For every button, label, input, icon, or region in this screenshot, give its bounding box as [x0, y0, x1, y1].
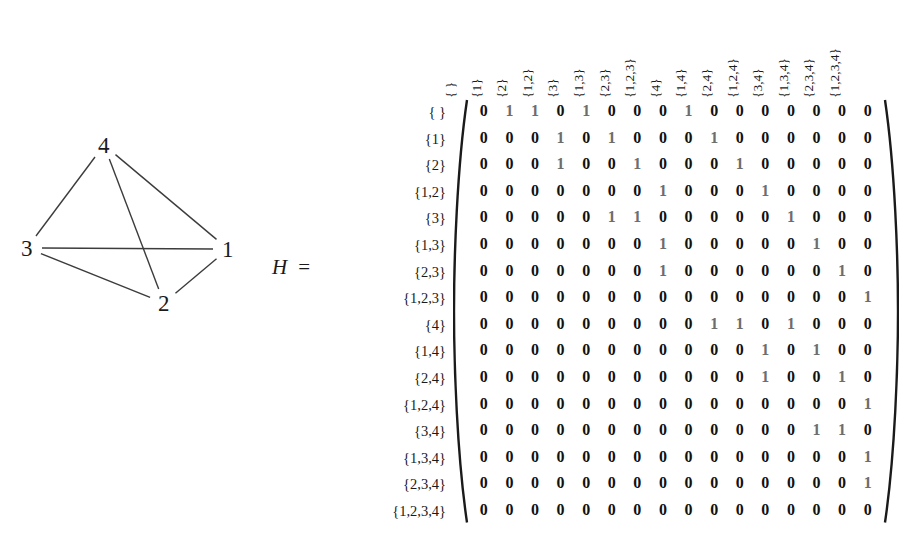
matrix-row-header-6: {2,3} [336, 259, 446, 286]
matrix-cell-11-1: 0 [497, 391, 523, 418]
matrix-cell-1-14: 0 [829, 125, 855, 152]
matrix-cell-2-6: 1 [625, 151, 651, 178]
matrix-cell-5-13: 1 [804, 231, 830, 258]
matrix-cell-14-15: 1 [855, 470, 881, 497]
matrix-cell-14-10: 0 [727, 470, 753, 497]
matrix-col-header-8: {4} [646, 82, 664, 98]
matrix-cell-7-3: 0 [548, 284, 574, 311]
matrix-cell-14-6: 0 [625, 470, 651, 497]
matrix-cell-8-9: 1 [701, 311, 727, 338]
matrix-cell-6-3: 0 [548, 258, 574, 285]
matrix-cell-6-4: 0 [573, 258, 599, 285]
matrix-cell-0-0: 0 [471, 98, 497, 125]
matrix-cell-1-13: 0 [804, 125, 830, 152]
matrix-cell-12-5: 0 [599, 417, 625, 444]
matrix-cell-7-8: 0 [676, 284, 702, 311]
matrix-row-header-15: {1,2,3,4} [336, 498, 446, 525]
matrix-cell-5-8: 0 [676, 231, 702, 258]
matrix-cell-5-12: 0 [778, 231, 804, 258]
matrix-cell-3-9: 0 [701, 178, 727, 205]
matrix-cell-10-15: 0 [855, 364, 881, 391]
matrix-cell-4-6: 1 [625, 204, 651, 231]
graph-edge-3-1 [42, 248, 213, 249]
matrix-cell-1-9: 1 [701, 125, 727, 152]
matrix-body: { }{1}{2}{1,2}{3}{1,3}{2,3}{1,2,3}{4}{1,… [336, 98, 899, 525]
matrix-cell-2-1: 0 [497, 151, 523, 178]
graph-vertex-4: 4 [98, 134, 110, 157]
matrix-row-header-2: {2} [336, 152, 446, 179]
matrix-cell-3-0: 0 [471, 178, 497, 205]
matrix-row-header-12: {3,4} [336, 418, 446, 445]
matrix-cell-9-11: 1 [753, 337, 779, 364]
matrix-cell-3-6: 0 [625, 178, 651, 205]
matrix-row-header-4: {3} [336, 205, 446, 232]
matrix-cell-14-11: 0 [753, 470, 779, 497]
matrix-cell-10-8: 0 [676, 364, 702, 391]
matrix-cell-6-6: 0 [625, 258, 651, 285]
matrix-cell-6-15: 0 [855, 258, 881, 285]
matrix-col-header-6: {2,3} [595, 82, 613, 98]
matrix-cell-14-14: 0 [829, 470, 855, 497]
matrix-col-header-7: {1,2,3} [620, 82, 638, 98]
matrix-cell-9-1: 0 [497, 337, 523, 364]
matrix-col-header-text: {3,4} [750, 68, 765, 98]
matrix-col-header-13: {1,3,4} [774, 82, 792, 98]
matrix-name-label: H [272, 255, 287, 280]
matrix-cell-3-10: 0 [727, 178, 753, 205]
matrix-cell-12-14: 1 [829, 417, 855, 444]
matrix-cell-4-9: 0 [701, 204, 727, 231]
matrix-cell-7-2: 0 [522, 284, 548, 311]
matrix-row: 0000000100010000 [471, 178, 881, 205]
matrix-cell-13-9: 0 [701, 444, 727, 471]
matrix-cell-14-5: 0 [599, 470, 625, 497]
matrix-cell-12-11: 0 [753, 417, 779, 444]
matrix-col-header-text: {4} [648, 78, 663, 98]
graph-edges-svg [0, 110, 270, 350]
matrix-cell-12-10: 0 [727, 417, 753, 444]
matrix-cell-10-12: 0 [778, 364, 804, 391]
matrix-cell-1-7: 0 [650, 125, 676, 152]
matrix-cell-2-7: 0 [650, 151, 676, 178]
right-paren-bracket [883, 98, 899, 525]
matrix-cell-7-4: 0 [573, 284, 599, 311]
matrix-cell-15-3: 0 [548, 497, 574, 524]
matrix-cell-12-4: 0 [573, 417, 599, 444]
graph-edge-4-1 [115, 155, 216, 240]
matrix-cell-1-8: 0 [676, 125, 702, 152]
matrix-row-headers: { }{1}{2}{1,2}{3}{1,3}{2,3}{1,2,3}{4}{1,… [336, 98, 453, 525]
matrix-col-header-text: {1,2} [520, 68, 535, 98]
matrix-row: 0000000000010010 [471, 364, 881, 391]
matrix-cell-13-4: 0 [573, 444, 599, 471]
matrix-cell-6-5: 0 [599, 258, 625, 285]
matrix-col-header-text: {3} [545, 78, 560, 98]
matrix-cell-10-6: 0 [625, 364, 651, 391]
matrix-cell-14-4: 0 [573, 470, 599, 497]
matrix-col-header-text: {1,3,4} [776, 58, 791, 98]
matrix-cell-15-11: 0 [753, 497, 779, 524]
matrix-cell-12-8: 0 [676, 417, 702, 444]
matrix-cell-2-15: 0 [855, 151, 881, 178]
matrix-cell-10-2: 0 [522, 364, 548, 391]
matrix-cell-1-0: 0 [471, 125, 497, 152]
matrix-cell-4-12: 1 [778, 204, 804, 231]
matrix-cell-13-8: 0 [676, 444, 702, 471]
matrix-cell-8-4: 0 [573, 311, 599, 338]
matrix-cell-0-5: 0 [599, 98, 625, 125]
matrix-col-header-14: {2,3,4} [799, 82, 817, 98]
matrix-cell-9-10: 0 [727, 337, 753, 364]
matrix-cell-15-7: 0 [650, 497, 676, 524]
matrix-cell-6-10: 0 [727, 258, 753, 285]
matrix-cell-13-2: 0 [522, 444, 548, 471]
matrix-cell-0-11: 0 [753, 98, 779, 125]
matrix-cell-11-2: 0 [522, 391, 548, 418]
matrix-cell-1-12: 0 [778, 125, 804, 152]
matrix-col-header-text: {2,3,4} [801, 58, 816, 98]
matrix-cell-5-11: 0 [753, 231, 779, 258]
matrix-cell-0-14: 0 [829, 98, 855, 125]
matrix-col-header-1: {1} [467, 82, 485, 98]
graph-vertex-2: 2 [158, 292, 170, 315]
matrix-cell-15-9: 0 [701, 497, 727, 524]
matrix-cell-15-4: 0 [573, 497, 599, 524]
matrix-cell-3-15: 0 [855, 178, 881, 205]
matrix-cell-0-9: 0 [701, 98, 727, 125]
